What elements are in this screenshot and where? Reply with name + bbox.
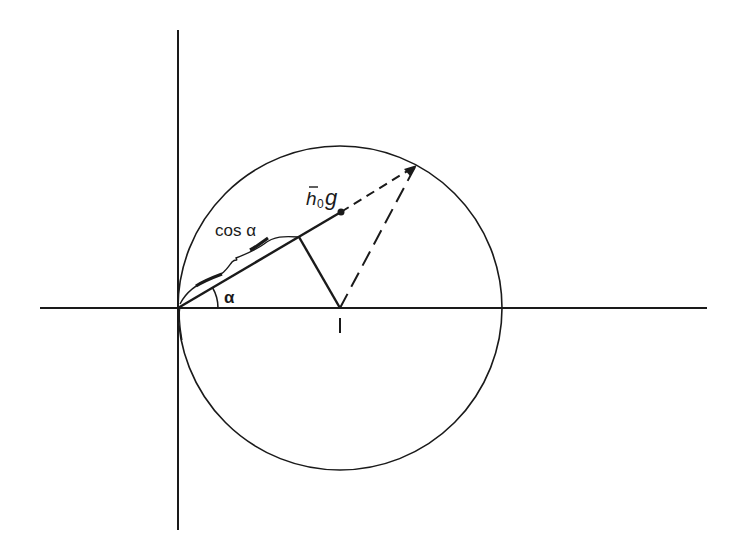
geometry-diagram: cos α α h 0 g — [0, 0, 729, 547]
cos-alpha-label: cos α — [215, 221, 256, 240]
h0g-label: h 0 g — [306, 185, 338, 211]
alpha-label: α — [224, 288, 235, 307]
h-symbol: h — [306, 188, 317, 209]
arrowhead-icon — [404, 165, 417, 176]
h-subscript: 0 — [317, 197, 324, 211]
dashed-radius — [340, 167, 415, 308]
angle-arc — [213, 288, 219, 308]
h0g-point — [338, 209, 345, 216]
vector-line — [178, 212, 341, 308]
dashed-extension — [341, 165, 417, 212]
perpendicular-line — [299, 237, 340, 308]
g-symbol: g — [325, 185, 338, 210]
